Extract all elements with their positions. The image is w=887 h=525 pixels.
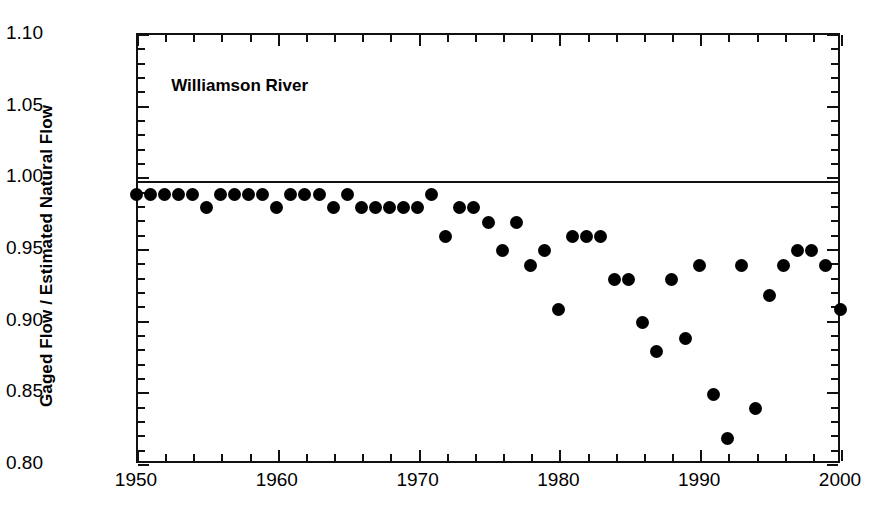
y-axis-right-tick (831, 63, 838, 65)
y-axis-right-tick (831, 364, 838, 366)
data-point (707, 388, 720, 401)
x-axis-top-tick (559, 35, 561, 46)
y-axis-tick-label: 1.00 (0, 166, 43, 185)
x-axis-minor-tick (475, 454, 477, 461)
y-axis-minor-tick (138, 263, 145, 265)
y-axis-minor-tick (138, 349, 145, 351)
x-axis-minor-tick (672, 454, 674, 461)
y-axis-minor-tick (138, 149, 145, 151)
y-axis-minor-tick (138, 163, 145, 165)
y-axis-right-tick (831, 91, 838, 93)
data-point (763, 289, 776, 302)
y-axis-major-tick (138, 249, 149, 251)
x-axis-top-tick (475, 35, 477, 42)
y-axis-minor-tick (138, 450, 145, 452)
x-axis-top-tick (672, 35, 674, 42)
y-axis-right-tick (827, 321, 838, 323)
data-point (834, 303, 847, 316)
y-axis-right-tick (831, 235, 838, 237)
reference-line (138, 181, 838, 183)
y-axis-minor-tick (138, 120, 145, 122)
x-axis-minor-tick (757, 454, 759, 461)
y-axis-major-tick (138, 177, 149, 179)
y-axis-minor-tick (138, 435, 145, 437)
data-point (496, 244, 509, 257)
x-axis-minor-tick (813, 454, 815, 461)
data-point (777, 259, 790, 272)
x-axis-top-tick (193, 35, 195, 42)
x-axis-top-tick (390, 35, 392, 42)
y-axis-right-tick (827, 249, 838, 251)
y-axis-right-tick (831, 292, 838, 294)
y-axis-minor-tick (138, 48, 145, 50)
plot-area (136, 33, 840, 463)
x-axis-minor-tick (334, 454, 336, 461)
y-axis-minor-tick (138, 306, 145, 308)
x-axis-minor-tick (193, 454, 195, 461)
x-axis-minor-tick (250, 454, 252, 461)
y-axis-major-tick (138, 392, 149, 394)
data-point (735, 259, 748, 272)
y-axis-right-tick (831, 335, 838, 337)
y-axis-right-tick (827, 34, 838, 36)
y-axis-minor-tick (138, 421, 145, 423)
data-point (693, 259, 706, 272)
y-axis-right-tick (831, 149, 838, 151)
y-axis-minor-tick (138, 335, 145, 337)
y-axis-minor-tick (138, 91, 145, 93)
data-point (144, 188, 157, 201)
x-axis-top-tick (334, 35, 336, 42)
y-axis-major-tick (138, 34, 149, 36)
y-axis-tick-label: 0.85 (0, 381, 43, 400)
data-point (580, 230, 593, 243)
y-axis-right-tick (831, 378, 838, 380)
x-axis-minor-tick (728, 454, 730, 461)
data-point (482, 216, 495, 229)
x-axis-minor-tick (362, 454, 364, 461)
x-axis-tick-label: 1990 (659, 470, 739, 489)
x-axis-top-tick (700, 35, 702, 46)
x-axis-top-tick (447, 35, 449, 42)
y-axis-tick-label: 0.80 (0, 453, 43, 472)
y-axis-right-tick (831, 206, 838, 208)
y-axis-minor-tick (138, 134, 145, 136)
y-axis-right-tick (831, 407, 838, 409)
y-axis-right-tick (831, 450, 838, 452)
x-axis-major-tick (841, 450, 843, 461)
data-point (749, 402, 762, 415)
y-axis-minor-tick (138, 378, 145, 380)
x-axis-top-tick (306, 35, 308, 42)
x-axis-top-tick (588, 35, 590, 42)
x-axis-top-tick (785, 35, 787, 42)
y-axis-right-tick (831, 163, 838, 165)
y-axis-tick-label: 1.05 (0, 95, 43, 114)
x-axis-top-tick (841, 35, 843, 46)
x-axis-top-tick (813, 35, 815, 42)
x-axis-tick-label: 2000 (800, 470, 880, 489)
y-axis-tick-label: 1.10 (0, 23, 43, 42)
x-axis-top-tick (728, 35, 730, 42)
x-axis-minor-tick (306, 454, 308, 461)
x-axis-minor-tick (644, 454, 646, 461)
y-axis-right-tick (831, 48, 838, 50)
data-point (679, 332, 692, 345)
x-axis-top-tick (531, 35, 533, 42)
x-axis-top-tick (362, 35, 364, 42)
data-point (665, 273, 678, 286)
x-axis-minor-tick (165, 454, 167, 461)
y-axis-right-tick (827, 464, 838, 466)
x-axis-tick-label: 1970 (378, 470, 458, 489)
y-axis-major-tick (138, 464, 149, 466)
chart-figure: Gaged Flow / Estimated Natural Flow 0.80… (0, 0, 887, 525)
x-axis-minor-tick (616, 454, 618, 461)
x-axis-top-tick (250, 35, 252, 42)
x-axis-top-tick (757, 35, 759, 42)
y-axis-minor-tick (138, 364, 145, 366)
y-axis-minor-tick (138, 220, 145, 222)
x-axis-minor-tick (503, 454, 505, 461)
x-axis-major-tick (700, 450, 702, 461)
x-axis-minor-tick (390, 454, 392, 461)
x-axis-top-tick (165, 35, 167, 42)
x-axis-top-tick (419, 35, 421, 46)
x-axis-top-tick (221, 35, 223, 42)
